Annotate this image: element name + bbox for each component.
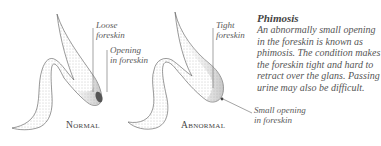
label-opening-in-foreskin: Opening in foreskin bbox=[110, 45, 148, 65]
normal-figure bbox=[12, 14, 104, 130]
info-panel: Phimosis An abnormally small opening in … bbox=[257, 12, 381, 93]
label-tight-foreskin: Tight foreskin bbox=[216, 20, 245, 40]
caption-normal: Normal bbox=[66, 120, 100, 130]
small-opening-icon bbox=[221, 98, 224, 101]
leader-small-opening bbox=[223, 99, 252, 113]
info-title: Phimosis bbox=[257, 12, 381, 24]
abnormal-figure bbox=[128, 12, 224, 129]
label-small-opening: Small opening in foreskin bbox=[254, 105, 306, 125]
label-loose-foreskin: Loose foreskin bbox=[96, 20, 125, 40]
caption-abnormal: Abnormal bbox=[181, 120, 225, 130]
info-description: An abnormally small opening in the fores… bbox=[257, 24, 381, 93]
